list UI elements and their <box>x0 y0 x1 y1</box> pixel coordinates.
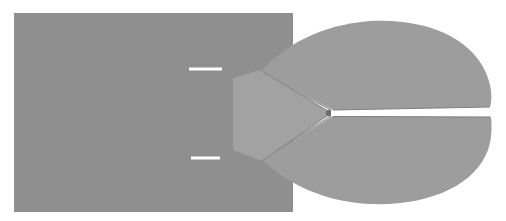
alignment-mark-lower <box>191 157 220 160</box>
alignment-mark-upper <box>189 68 222 71</box>
diagram-canvas <box>0 0 506 221</box>
slit-lower-edge <box>333 117 490 118</box>
diagram-figure <box>0 0 506 221</box>
